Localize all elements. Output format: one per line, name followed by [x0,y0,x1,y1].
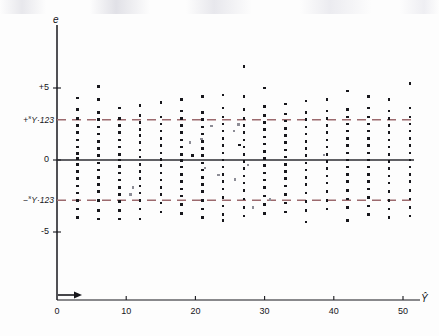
data-point [76,208,79,211]
data-point [305,162,308,165]
data-point [367,188,370,191]
data-point [222,130,225,133]
data-point [76,108,79,111]
data-point [409,130,412,133]
data-point [180,188,183,191]
data-point [76,152,79,155]
data-point [388,167,391,170]
data-point [76,177,79,180]
data-point [222,144,225,147]
data-point [346,130,349,133]
data-point [367,95,370,98]
data-point [409,215,412,218]
data-point [409,166,412,169]
data-point [388,208,391,211]
data-point [263,121,266,124]
data-point [326,98,329,101]
data-point [409,82,412,85]
data-point [367,107,370,110]
data-point [263,114,266,117]
data-point [326,110,329,113]
data-point [284,113,287,116]
data-point [180,153,183,156]
data-point [263,87,266,90]
data-point [243,189,246,192]
data-point [222,116,225,119]
data-point-stray [269,198,272,201]
data-point [346,180,349,183]
data-point [180,212,183,215]
data-point [201,154,204,157]
data-point [76,117,79,120]
data-point [367,180,370,183]
data-point [139,185,142,188]
data-point [118,186,121,189]
data-point-stray [234,178,237,181]
data-point [263,203,266,206]
y-tick-label: +5 [17,82,49,92]
data-point [139,170,142,173]
data-point [409,198,412,201]
data-point [409,180,412,183]
data-point [263,172,266,175]
data-point [160,116,163,119]
data-point [284,149,287,152]
data-point [263,105,266,108]
data-point [160,211,163,214]
data-point [76,124,79,127]
data-point [243,160,246,163]
data-point [97,154,100,157]
data-point [326,117,329,120]
data-point [284,103,287,106]
data-point [118,139,121,142]
data-point [139,149,142,152]
data-point [409,189,412,192]
data-point [367,123,370,126]
data-point [180,159,183,162]
data-point [346,144,349,147]
data-point [305,133,308,136]
data-point [263,143,266,146]
data-point [326,175,329,178]
data-point [367,166,370,169]
data-point [118,193,121,196]
data-point-stray [247,164,250,167]
data-point [263,212,266,215]
data-point [139,156,142,159]
data-point [388,98,391,101]
data-point [305,183,308,186]
data-point [243,182,246,185]
y-tick-label: 0 [17,154,49,164]
data-point [284,211,287,214]
data-point [409,152,412,155]
data-point [409,206,412,209]
data-point [139,114,142,117]
data-point [243,124,246,127]
data-point [243,117,246,120]
data-point [97,169,100,172]
x-tick-label: 40 [328,306,340,316]
data-point [201,95,204,98]
data-point [367,144,370,147]
data-point [263,195,266,198]
residual-plot-canvas [0,0,439,336]
data-point [97,147,100,150]
data-point [367,116,370,119]
data-point-stray [237,123,240,126]
axes-layer [53,25,420,300]
data-point [388,146,391,149]
data-point [118,117,121,120]
data-point [222,159,225,162]
data-point [284,156,287,159]
data-point [409,116,412,119]
data-point [118,159,121,162]
data-point [139,104,142,107]
data-point [139,218,142,221]
data-point [118,153,121,156]
data-point [367,205,370,208]
data-point [326,124,329,127]
data-point [160,130,163,133]
data-point [118,107,121,110]
data-point [139,208,142,211]
data-point [284,163,287,166]
